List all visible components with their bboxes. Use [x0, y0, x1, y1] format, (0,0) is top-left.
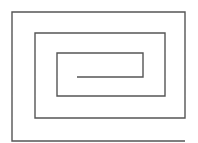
spiral-svg [0, 0, 198, 143]
spiral-line [12, 12, 185, 141]
spiral-diagram [0, 0, 198, 143]
